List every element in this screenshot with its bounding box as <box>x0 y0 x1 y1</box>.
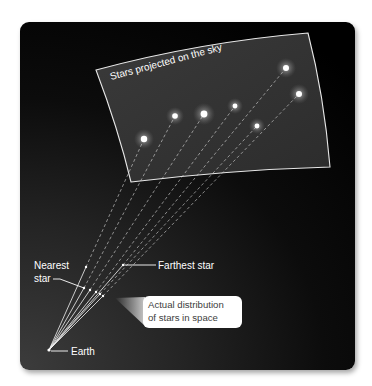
star-icon <box>249 118 265 134</box>
star-icon <box>276 58 296 78</box>
star-icon <box>166 107 184 125</box>
callout-line2: of stars in space <box>148 311 242 324</box>
callout-line1: Actual distribution <box>148 298 242 311</box>
sight-lines <box>49 265 123 350</box>
nearest-star-label-line1: Nearest <box>34 260 69 271</box>
actual-stars <box>83 264 124 297</box>
earth-icon <box>47 348 50 351</box>
star-icon <box>193 103 215 125</box>
star-icon <box>227 98 243 114</box>
star-icon <box>289 84 309 104</box>
star-icon <box>134 129 154 149</box>
sky-plane <box>96 33 330 182</box>
earth-label: Earth <box>71 346 95 357</box>
callout-pointer <box>115 297 145 326</box>
star-projection-diagram: Stars projected on the sky <box>0 0 372 386</box>
nearest-star-label-line2: star <box>34 273 51 284</box>
callout-box: Actual distribution of stars in space <box>143 296 242 328</box>
farthest-star-label: Farthest star <box>158 260 215 271</box>
